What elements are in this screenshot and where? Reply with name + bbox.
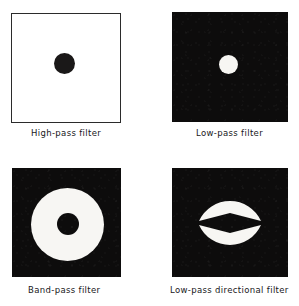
directional-lower-lobe	[199, 225, 261, 245]
band-pass-inner-stop-disc-icon	[57, 213, 79, 235]
panel-band-pass-filter	[12, 168, 121, 277]
panel-low-pass-directional-filter	[172, 168, 288, 277]
panel-low-pass-filter	[172, 12, 288, 122]
directional-upper-lobe	[199, 201, 261, 221]
caption-band-pass-filter: Band-pass filter	[28, 285, 100, 295]
caption-high-pass-filter: High-pass filter	[31, 128, 101, 138]
panel-high-pass-filter	[11, 13, 121, 123]
caption-low-pass-directional-filter: Low-pass directional filter	[170, 285, 289, 295]
filter-mask-figure: High-pass filter Low-pass filter Band-pa…	[0, 0, 299, 306]
high-pass-stop-disc-icon	[54, 53, 75, 74]
caption-low-pass-filter: Low-pass filter	[196, 128, 263, 138]
directional-bowtie-icon	[172, 168, 288, 277]
low-pass-pass-disc-icon	[219, 55, 238, 74]
